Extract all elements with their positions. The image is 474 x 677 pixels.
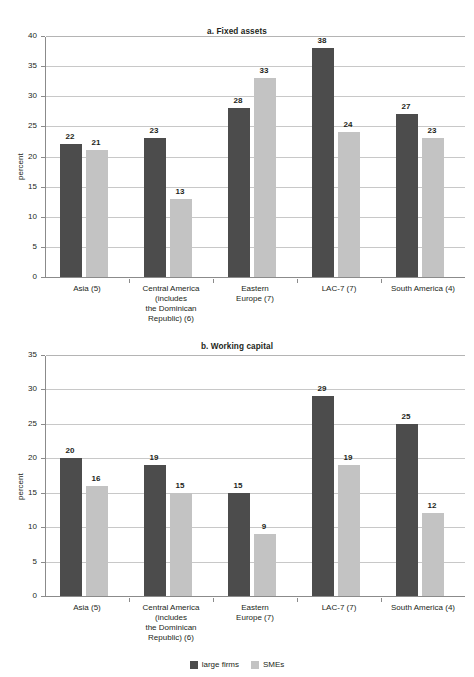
- bar-value-label: 23: [134, 127, 174, 135]
- bar-value-label: 28: [218, 97, 258, 105]
- category-label-line: South America (4): [371, 603, 474, 613]
- panel-title-fixed-assets: a. Fixed assets: [0, 27, 474, 36]
- y-axis-tick-mark: [41, 277, 45, 278]
- category-label-line: Europe (7): [203, 294, 307, 304]
- legend-swatch-icon: [190, 661, 198, 669]
- y-axis-tick-label: 20: [7, 153, 37, 161]
- bar-working-capital-large-firms: [312, 396, 334, 596]
- bar-working-capital-large-firms: [228, 493, 250, 596]
- gridline: [46, 355, 465, 356]
- bar-fixed-assets-large-firms: [396, 114, 418, 277]
- y-axis-tick-label: 25: [7, 420, 37, 428]
- y-axis-tick-mark: [41, 187, 45, 188]
- bar-value-label: 20: [50, 447, 90, 455]
- y-axis-tick-mark: [41, 596, 45, 597]
- y-axis-tick-label: 20: [7, 454, 37, 462]
- bar-fixed-assets-smes: [86, 150, 108, 277]
- bar-working-capital-smes: [86, 486, 108, 596]
- y-axis-tick-label: 30: [7, 92, 37, 100]
- bar-value-label: 38: [302, 37, 342, 45]
- bar-fixed-assets-smes: [422, 138, 444, 277]
- chart-panel-fixed-assets: a. Fixed assets percent 0510152025303540…: [0, 0, 474, 340]
- bar-value-label: 24: [328, 121, 368, 129]
- y-axis-tick-label: 10: [7, 213, 37, 221]
- y-axis-tick-mark: [41, 562, 45, 563]
- y-axis-tick-mark: [41, 66, 45, 67]
- bar-fixed-assets-smes: [170, 199, 192, 277]
- gridline: [46, 389, 465, 390]
- figure-root: a. Fixed assets percent 0510152025303540…: [0, 0, 474, 677]
- y-axis-tick-mark: [41, 96, 45, 97]
- bar-value-label: 21: [76, 139, 116, 147]
- category-label-line: the Dominican: [119, 304, 223, 314]
- y-axis-tick-mark: [41, 389, 45, 390]
- bar-working-capital-smes: [338, 465, 360, 596]
- category-separator-tick: [213, 598, 214, 602]
- bar-value-label: 15: [160, 482, 200, 490]
- legend-label: large firms: [202, 660, 239, 669]
- panel-title-working-capital: b. Working capital: [0, 342, 474, 351]
- bar-working-capital-smes: [254, 534, 276, 596]
- bar-value-label: 27: [386, 103, 426, 111]
- bar-value-label: 29: [302, 385, 342, 393]
- bar-working-capital-smes: [170, 493, 192, 596]
- bar-value-label: 13: [160, 188, 200, 196]
- y-axis-tick-label: 35: [7, 62, 37, 70]
- bar-value-label: 16: [76, 475, 116, 483]
- y-axis-tick-mark: [41, 126, 45, 127]
- category-label-line: South America (4): [371, 284, 474, 294]
- y-axis-tick-label: 5: [7, 558, 37, 566]
- y-axis-tick-label: 5: [7, 243, 37, 251]
- bar-value-label: 23: [412, 127, 452, 135]
- bar-value-label: 19: [134, 454, 174, 462]
- x-axis-category-label: South America (4): [371, 603, 474, 613]
- category-separator-tick: [297, 598, 298, 602]
- category-label-line: Republic) (6): [119, 314, 223, 324]
- category-label-line: Republic) (6): [119, 633, 223, 643]
- bar-value-label: 12: [412, 502, 452, 510]
- category-label-line: the Dominican: [119, 623, 223, 633]
- y-axis-tick-label: 0: [7, 273, 37, 281]
- legend: large firmsSMEs: [0, 660, 474, 669]
- gridline: [46, 36, 465, 37]
- legend-item-large: large firms: [190, 660, 239, 669]
- category-label-line: Europe (7): [203, 613, 307, 623]
- y-axis-tick-mark: [41, 355, 45, 356]
- y-axis-tick-label: 40: [7, 32, 37, 40]
- bar-fixed-assets-large-firms: [228, 108, 250, 277]
- bar-fixed-assets-smes: [254, 78, 276, 277]
- category-separator-tick: [381, 279, 382, 283]
- chart-panel-working-capital: b. Working capital percent 0510152025303…: [0, 340, 474, 677]
- y-axis-tick-label: 0: [7, 592, 37, 600]
- bar-value-label: 9: [244, 523, 284, 531]
- category-separator-tick: [129, 598, 130, 602]
- bar-working-capital-smes: [422, 513, 444, 596]
- category-separator-tick: [213, 279, 214, 283]
- y-axis-tick-label: 15: [7, 183, 37, 191]
- y-axis-tick-mark: [41, 217, 45, 218]
- category-separator-tick: [129, 279, 130, 283]
- y-axis-tick-label: 35: [7, 351, 37, 359]
- bar-value-label: 33: [244, 67, 284, 75]
- bar-value-label: 25: [386, 413, 426, 421]
- category-separator-tick: [297, 279, 298, 283]
- y-axis-tick-mark: [41, 157, 45, 158]
- bar-fixed-assets-smes: [338, 132, 360, 277]
- bar-fixed-assets-large-firms: [312, 48, 334, 277]
- y-axis-tick-mark: [41, 458, 45, 459]
- x-axis-category-label: South America (4): [371, 284, 474, 294]
- y-axis-tick-mark: [41, 36, 45, 37]
- y-axis-tick-mark: [41, 247, 45, 248]
- category-separator-tick: [381, 598, 382, 602]
- legend-item-sme: SMEs: [251, 660, 284, 669]
- legend-label: SMEs: [263, 660, 284, 669]
- y-axis-tick-label: 10: [7, 523, 37, 531]
- y-axis-tick-label: 30: [7, 385, 37, 393]
- bar-value-label: 19: [328, 454, 368, 462]
- y-axis-tick-mark: [41, 493, 45, 494]
- bar-fixed-assets-large-firms: [60, 144, 82, 277]
- bar-fixed-assets-large-firms: [144, 138, 166, 277]
- y-axis-tick-mark: [41, 527, 45, 528]
- y-axis-tick-label: 15: [7, 489, 37, 497]
- y-axis-tick-label: 25: [7, 122, 37, 130]
